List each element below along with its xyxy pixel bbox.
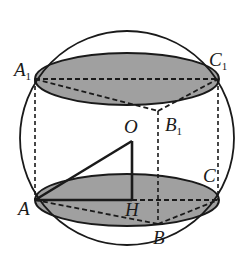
- label-B1: B1: [165, 114, 182, 137]
- label-C: C: [203, 165, 216, 186]
- label-O: O: [124, 116, 138, 137]
- sphere-cylinder-diagram: A1 C1 B1 O A H C B: [0, 0, 252, 271]
- label-B: B: [153, 227, 165, 248]
- label-H: H: [124, 199, 140, 220]
- label-C1: C1: [209, 49, 227, 72]
- label-A: A: [16, 198, 30, 219]
- label-A1: A1: [12, 59, 31, 82]
- geometry-figure: A1 C1 B1 O A H C B: [0, 0, 252, 271]
